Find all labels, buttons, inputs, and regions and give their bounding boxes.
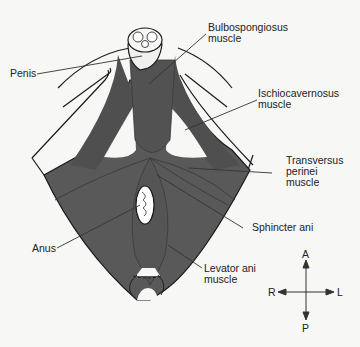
compass-left-label: L bbox=[337, 286, 343, 298]
anus-shape bbox=[136, 186, 154, 224]
label-transversus-perinei-muscle: Transversusperineimuscle bbox=[286, 155, 343, 188]
compass-right-label: R bbox=[268, 286, 276, 298]
label-bulbospongiosus-muscle: Bulbospongiosusmuscle bbox=[208, 22, 288, 44]
label-levator-ani-muscle: Levator animuscle bbox=[204, 263, 256, 285]
label-ischiocavernosus-muscle: Ischiocavernosusmuscle bbox=[258, 88, 339, 110]
compass-anterior-label: A bbox=[302, 248, 309, 260]
label-penis: Penis bbox=[10, 68, 36, 79]
label-anus: Anus bbox=[32, 243, 56, 254]
label-sphincter-ani: Sphincter ani bbox=[252, 222, 313, 233]
orientation-compass bbox=[278, 260, 334, 320]
compass-posterior-label: P bbox=[302, 322, 309, 334]
